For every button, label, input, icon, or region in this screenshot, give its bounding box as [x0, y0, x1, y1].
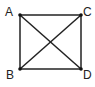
square-edges — [20, 15, 81, 69]
vertex-label-d: D — [83, 68, 92, 82]
vertex-label-b: B — [6, 68, 14, 82]
diagram-canvas: A C B D — [0, 0, 95, 87]
vertex-label-c: C — [83, 5, 92, 19]
vertex-label-a: A — [5, 5, 13, 19]
vertex-a-dot — [18, 13, 22, 17]
vertex-b-dot — [18, 67, 22, 71]
